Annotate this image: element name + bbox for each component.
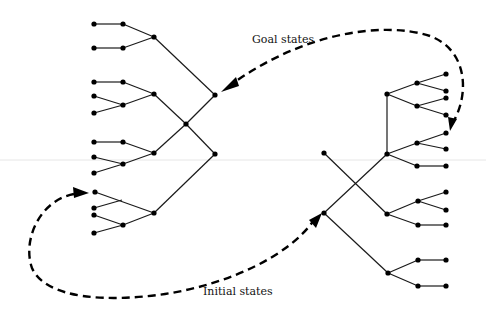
state-space-diagram	[0, 0, 486, 318]
left-tree	[94, 24, 215, 233]
right-tree	[324, 74, 446, 286]
arrowhead-right-goal	[448, 117, 457, 131]
right-tree-nodes	[321, 71, 448, 288]
arrowhead-left-goal	[221, 77, 239, 92]
arrowhead-right-initial	[309, 213, 322, 228]
initial-states-arrow	[29, 187, 322, 298]
goal-states-label: Goal states	[252, 33, 314, 46]
arrowhead-left-initial	[73, 187, 89, 198]
initial-states-label: Initial states	[203, 285, 273, 298]
